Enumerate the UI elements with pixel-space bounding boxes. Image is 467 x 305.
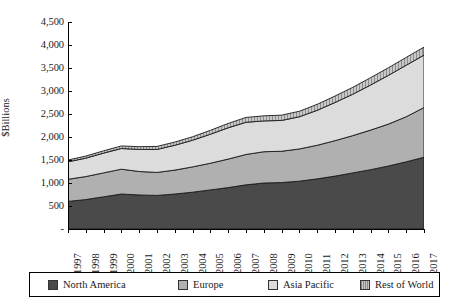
x-tick-mark <box>157 229 158 233</box>
x-tick-mark <box>335 229 336 233</box>
x-tick-mark <box>388 229 389 233</box>
x-tick-mark <box>282 229 283 233</box>
legend-item-europe[interactable]: Europe <box>178 279 223 290</box>
legend-label: Europe <box>193 279 223 290</box>
legend-label: North America <box>63 279 126 290</box>
y-tick-label: 1,500 <box>20 155 64 165</box>
x-tick-label: 2007 <box>250 253 261 274</box>
y-tick-mark <box>68 206 72 207</box>
x-tick-mark <box>371 229 372 233</box>
y-tick-label: 3,000 <box>20 86 64 96</box>
x-tick-mark <box>121 229 122 233</box>
y-tick-label: 1,000 <box>20 178 64 188</box>
x-tick-label: 1999 <box>108 253 119 274</box>
y-axis-title: $Billions <box>0 98 11 137</box>
x-tick-mark <box>210 229 211 233</box>
chart-container: $Billions -5001,0001,5002,0002,5003,0003… <box>0 0 467 305</box>
x-tick-label: 2011 <box>321 254 332 274</box>
chart-legend: North AmericaEuropeAsia PacificRest of W… <box>29 272 440 297</box>
x-tick-label: 2012 <box>339 253 350 274</box>
legend-label: Asia Pacific <box>283 279 334 290</box>
x-tick-mark <box>424 229 425 233</box>
x-tick-label: 2017 <box>428 253 439 274</box>
x-tick-mark <box>139 229 140 233</box>
x-tick-label: 2014 <box>375 253 386 274</box>
x-tick-mark <box>104 229 105 233</box>
x-tick-label: 2004 <box>197 253 208 274</box>
y-axis-line <box>68 22 69 230</box>
legend-label: Rest of World <box>375 279 433 290</box>
legend-swatch-icon <box>178 280 188 290</box>
y-tick-label: 4,000 <box>20 40 64 50</box>
y-tick-label: 2,000 <box>20 132 64 142</box>
x-tick-label: 2015 <box>392 253 403 274</box>
x-tick-label: 2006 <box>232 253 243 274</box>
x-tick-label: 2002 <box>161 253 172 274</box>
x-tick-mark <box>175 229 176 233</box>
x-tick-label: 2001 <box>143 253 154 274</box>
y-tick-mark <box>68 22 72 23</box>
x-tick-mark <box>68 229 69 233</box>
y-tick-mark <box>68 160 72 161</box>
x-tick-label: 2013 <box>357 253 368 274</box>
x-tick-label: 2010 <box>303 253 314 274</box>
x-tick-label: 1998 <box>90 253 101 274</box>
y-tick-mark <box>68 114 72 115</box>
x-tick-mark <box>246 229 247 233</box>
x-tick-mark <box>317 229 318 233</box>
x-tick-mark <box>193 229 194 233</box>
x-tick-mark <box>86 229 87 233</box>
y-tick-mark <box>68 183 72 184</box>
legend-item-north-america[interactable]: North America <box>48 279 126 290</box>
x-tick-mark <box>353 229 354 233</box>
legend-swatch-icon <box>48 280 58 290</box>
y-tick-label: 4,500 <box>20 17 64 27</box>
legend-swatch-icon <box>268 280 278 290</box>
x-tick-label: 1997 <box>72 253 83 274</box>
y-tick-label: 2,500 <box>20 109 64 119</box>
x-tick-label: 2008 <box>268 253 279 274</box>
stacked-area-series <box>68 22 424 229</box>
x-tick-label: 2009 <box>286 253 297 274</box>
legend-swatch-icon <box>360 280 370 290</box>
x-tick-label: 2005 <box>214 253 225 274</box>
legend-item-asia-pacific[interactable]: Asia Pacific <box>268 279 334 290</box>
x-tick-label: 2003 <box>179 253 190 274</box>
x-tick-label: 2016 <box>410 253 421 274</box>
x-tick-mark <box>264 229 265 233</box>
y-tick-label: 3,500 <box>20 63 64 73</box>
x-tick-label: 2000 <box>125 253 136 274</box>
y-tick-mark <box>68 137 72 138</box>
y-tick-mark <box>68 68 72 69</box>
y-tick-mark <box>68 91 72 92</box>
x-tick-mark <box>406 229 407 233</box>
x-tick-mark <box>228 229 229 233</box>
x-tick-mark <box>299 229 300 233</box>
y-tick-label: 500 <box>20 201 64 211</box>
y-tick-mark <box>68 45 72 46</box>
legend-item-rest-of-world[interactable]: Rest of World <box>360 279 433 290</box>
plot-area <box>68 22 424 229</box>
